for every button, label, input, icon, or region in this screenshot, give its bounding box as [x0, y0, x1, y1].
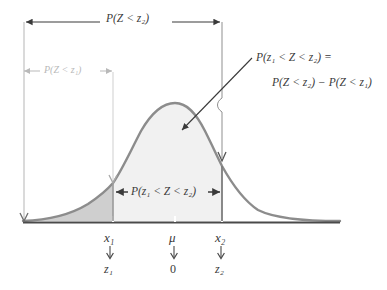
callout-leader-arrow [182, 58, 252, 130]
second-span-label: P(Z < z₁) [44, 65, 81, 75]
callout-line-1: P(z₁ < Z < z₂) = [256, 52, 332, 64]
distribution-diagram [0, 0, 387, 290]
band-label: P(z₁ < Z < z₂) [131, 186, 196, 198]
axis-tick-x-2: x₂ [215, 231, 225, 244]
callout-line-2-left: P(Z < z₂) − [272, 76, 326, 88]
axis-tick-z-0: z₁ [104, 263, 113, 275]
left-guide-line [20, 22, 28, 221]
axis-tick-x-0: x₁ [104, 231, 114, 244]
axis-tick-z-2: z₂ [215, 263, 224, 275]
top-span-label: P(Z < z₂) [106, 13, 149, 25]
callout-line-2-right: P(Z < z₁) [329, 76, 372, 88]
axis-tick-x-1: μ [169, 231, 176, 244]
central-band-shading [113, 103, 222, 221]
figure-canvas: P(Z < z₂) P(Z < z₁) P(z₁ < Z < z₂) P(z₁ … [0, 0, 387, 290]
axis-tick-z-1: 0 [170, 263, 176, 275]
callout-line-2: P(Z < z₂) −P(Z < z₁) [272, 77, 372, 89]
left-tail-shading [23, 183, 113, 221]
